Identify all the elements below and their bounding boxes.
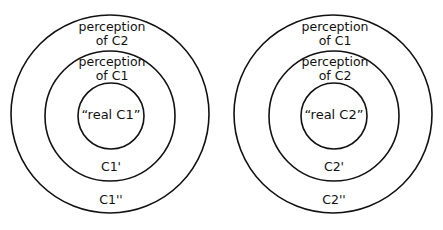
outer-label-line1: perception bbox=[79, 20, 146, 34]
inner-label: “real C2” bbox=[305, 108, 364, 122]
middle-label-line2: of C1 bbox=[79, 69, 146, 83]
middle-ring-label: C2' bbox=[324, 160, 344, 174]
middle-label-line1: perception bbox=[79, 55, 146, 69]
middle-label: perception of C1 bbox=[79, 55, 146, 83]
middle-label: perception of C2 bbox=[302, 55, 369, 83]
inner-label: “real C1” bbox=[82, 108, 141, 122]
outer-ring-label: C2'' bbox=[322, 193, 346, 207]
middle-label-line2: of C2 bbox=[302, 69, 369, 83]
outer-label-line2: of C1 bbox=[302, 34, 369, 48]
outer-label-line2: of C2 bbox=[79, 34, 146, 48]
concentric-circles-canvas bbox=[0, 0, 443, 230]
middle-ring-label: C1' bbox=[101, 160, 121, 174]
outer-label-line1: perception bbox=[302, 20, 369, 34]
middle-label-line1: perception bbox=[302, 55, 369, 69]
outer-label: perception of C2 bbox=[79, 20, 146, 48]
outer-ring-label: C1'' bbox=[99, 193, 123, 207]
outer-label: perception of C1 bbox=[302, 20, 369, 48]
